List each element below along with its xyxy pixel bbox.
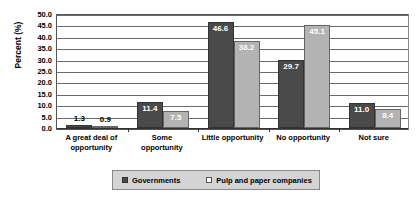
- category-label: Little opportunity: [197, 133, 268, 143]
- chart-legend: GovernmentsPulp and paper companies: [112, 170, 320, 190]
- y-tick-label: 15.0: [10, 90, 52, 99]
- x-tick-mark: [269, 128, 270, 132]
- bar: [92, 126, 118, 128]
- x-tick-mark: [128, 128, 129, 132]
- category-label-line: Not sure: [338, 133, 409, 143]
- bar-value-label: 8.4: [371, 111, 405, 120]
- bar-value-label: 29.7: [274, 62, 308, 71]
- y-tick-label: 50.0: [10, 10, 52, 19]
- bar: [208, 22, 234, 128]
- legend-label: Pulp and paper companies: [216, 176, 311, 185]
- y-tick-label: 20.0: [10, 78, 52, 87]
- category-label-line: opportunity: [127, 143, 198, 153]
- legend-swatch-icon: [206, 177, 212, 183]
- bar-group: 29.745.1: [278, 13, 330, 128]
- bar-value-label: 11.4: [133, 104, 167, 113]
- category-label: Not sure: [338, 133, 409, 143]
- bar: [66, 125, 92, 128]
- bar-group: 46.638.2: [208, 13, 260, 128]
- y-tick-label: 45.0: [10, 21, 52, 30]
- y-tick-label: 25.0: [10, 67, 52, 76]
- category-label: A great deal ofopportunity: [56, 133, 127, 152]
- category-label: Someopportunity: [127, 133, 198, 152]
- y-tick-label: 0.0: [10, 124, 52, 133]
- y-tick-label: 5.0: [10, 113, 52, 122]
- bar-group: 11.47.5: [137, 13, 189, 128]
- y-tick-label: 35.0: [10, 44, 52, 53]
- category-label-line: opportunity: [56, 143, 127, 153]
- plot-area: 1.30.911.47.546.638.229.745.111.08.4: [56, 14, 409, 130]
- category-label: No opportunity: [268, 133, 339, 143]
- bar-value-label: 38.2: [230, 43, 264, 52]
- bar-value-label: 7.5: [159, 113, 193, 122]
- category-label-line: Some: [127, 133, 198, 143]
- y-tick-label: 10.0: [10, 101, 52, 110]
- x-tick-mark: [339, 128, 340, 132]
- bar-value-label: 0.9: [88, 115, 122, 124]
- category-label-line: Little opportunity: [197, 133, 268, 143]
- x-tick-mark: [198, 128, 199, 132]
- category-label-line: A great deal of: [56, 133, 127, 143]
- legend-item[interactable]: Governments: [122, 176, 180, 185]
- y-tick-label: 30.0: [10, 56, 52, 65]
- x-axis-line: [57, 128, 408, 129]
- category-label-line: No opportunity: [268, 133, 339, 143]
- legend-swatch-icon: [122, 177, 128, 183]
- x-axis-category-labels: A great deal ofopportunitySomeopportunit…: [56, 133, 409, 157]
- bar-group: 11.08.4: [349, 13, 401, 128]
- legend-label: Governments: [132, 176, 180, 185]
- bar: [234, 41, 260, 128]
- y-tick-label: 40.0: [10, 33, 52, 42]
- bar-chart: Percent (%) 50.045.040.035.030.025.020.0…: [0, 0, 419, 205]
- bar-value-label: 45.1: [300, 27, 334, 36]
- bar: [304, 25, 330, 128]
- bar-value-label: 46.6: [204, 24, 238, 33]
- bar-group: 1.30.9: [66, 13, 118, 128]
- legend-item[interactable]: Pulp and paper companies: [206, 176, 311, 185]
